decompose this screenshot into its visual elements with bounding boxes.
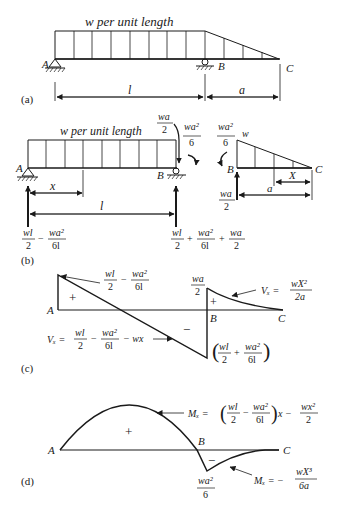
svg-text:2: 2 xyxy=(78,340,83,351)
load-label: w per unit length xyxy=(85,14,173,29)
panel-b: w per unit length A B wa 2 wa² 6 x l xyxy=(15,111,323,267)
dimension-lines-overhang xyxy=(239,168,312,200)
leader-arrow-icon xyxy=(230,467,252,475)
svg-text:6l: 6l xyxy=(248,354,256,365)
overhang-label: a xyxy=(239,83,245,97)
svg-text:wl: wl xyxy=(219,341,229,352)
X-dim-label: X xyxy=(288,169,297,181)
svg-text:2: 2 xyxy=(222,354,227,365)
shear-min-value: ( wl 2 + wa² 6l ) xyxy=(212,338,270,365)
roller-support-icon xyxy=(167,168,186,179)
svg-text:wa: wa xyxy=(192,273,204,284)
svg-text:−: − xyxy=(38,233,44,244)
point-A-label: A xyxy=(46,304,54,316)
svg-text:wl: wl xyxy=(105,268,115,279)
point-B-label: B xyxy=(210,312,217,324)
svg-text:6l: 6l xyxy=(52,240,60,251)
panel-d: A B C + − Mₓ = ( wl 2 − wa² 6l ) x − wx²… xyxy=(21,401,318,500)
svg-text:wa²: wa² xyxy=(218,121,234,132)
svg-text:2: 2 xyxy=(224,201,229,212)
shear-at-B-label: wa 2 xyxy=(157,111,173,135)
svg-text:2: 2 xyxy=(234,240,239,251)
w-label: w xyxy=(242,128,249,139)
svg-text:−: − xyxy=(243,407,249,418)
point-B-label: B xyxy=(157,169,164,181)
point-B-label: B xyxy=(198,435,205,447)
moment-at-B2-label: wa² 6 xyxy=(217,121,235,148)
shear-max-value: wl 2 − wa² 6l xyxy=(104,268,149,292)
svg-text:Mₓ =: Mₓ = xyxy=(187,408,208,419)
svg-text:6: 6 xyxy=(203,489,208,500)
svg-text:+: + xyxy=(234,347,240,358)
svg-text:2: 2 xyxy=(108,281,113,292)
shear-at-B-value: wa 2 xyxy=(191,273,205,297)
svg-text:wa: wa xyxy=(158,111,170,122)
overhang-load-outline xyxy=(237,140,312,168)
svg-text:2: 2 xyxy=(175,240,180,251)
svg-text:wX²: wX² xyxy=(291,278,308,289)
svg-text:wl: wl xyxy=(23,227,33,238)
beam-diagram: w per unit length A B C l a (a) xyxy=(0,0,341,514)
point-C-label: C xyxy=(283,444,291,456)
moment-arrow-icon xyxy=(188,155,196,165)
panel-a: w per unit length A B C l a (a) xyxy=(21,14,294,106)
moment-min-value: wa² 6 xyxy=(197,475,215,500)
svg-text:−: − xyxy=(91,333,97,344)
svg-text:wa²: wa² xyxy=(198,227,214,238)
svg-text:wa: wa xyxy=(220,188,232,199)
svg-text:2: 2 xyxy=(26,240,31,251)
svg-text:wa²: wa² xyxy=(132,268,148,279)
span-label: l xyxy=(128,83,132,97)
svg-text:−: − xyxy=(121,274,127,285)
svg-text:6: 6 xyxy=(223,137,228,148)
svg-text:wa²: wa² xyxy=(102,327,118,338)
reaction-A-formula: wl 2 − wa² 6l xyxy=(22,227,66,251)
shear-span-formula: Vₓ = wl 2 − wa² 6l − wx xyxy=(47,327,144,351)
svg-text:wa²: wa² xyxy=(198,475,214,486)
panel-b-label: (b) xyxy=(21,254,34,267)
roller-support-icon xyxy=(196,59,214,70)
svg-text:wa²: wa² xyxy=(253,401,269,412)
svg-text:wa: wa xyxy=(230,227,242,238)
point-A-label: A xyxy=(15,162,23,174)
svg-text:): ) xyxy=(271,402,278,425)
point-C-label: C xyxy=(278,312,286,324)
svg-text:6l: 6l xyxy=(135,281,143,292)
panel-c-label: (c) xyxy=(21,362,34,375)
load-label: w per unit length xyxy=(60,124,142,138)
svg-text:wa²: wa² xyxy=(184,121,200,132)
reaction-B-formula: wl 2 + wa² 6l + wa 2 xyxy=(171,227,245,251)
reaction-B2-label: wa 2 xyxy=(219,188,235,212)
plus-sign: + xyxy=(69,290,76,305)
plus-sign: + xyxy=(125,424,132,439)
moment-span-formula: Mₓ = ( wl 2 − wa² 6l ) x − wx² 2 xyxy=(187,401,318,425)
svg-text:− wx: − wx xyxy=(123,333,144,344)
plus-sign-overhang: + xyxy=(210,295,217,309)
panel-c: A B C + − + wl 2 − wa² 6l wa 2 Vₓ = wX² … xyxy=(21,268,312,375)
svg-text:2: 2 xyxy=(231,414,236,425)
minus-sign: − xyxy=(183,322,190,337)
x-dim-label: x xyxy=(49,179,56,193)
svg-text:(: ( xyxy=(220,402,227,425)
moment-overhang-formula: Mₓ = − wX³ 6a xyxy=(253,466,317,491)
svg-text:wl: wl xyxy=(228,401,238,412)
dimension-lines-a xyxy=(55,64,280,101)
point-B2-label: B xyxy=(227,163,234,175)
svg-text:): ) xyxy=(263,338,270,363)
svg-text:Vₓ =: Vₓ = xyxy=(261,285,279,296)
point-C-label: C xyxy=(286,62,294,74)
leader-arrow-icon xyxy=(232,290,256,296)
svg-text:wl: wl xyxy=(172,227,182,238)
panel-a-label: (a) xyxy=(21,93,34,106)
panel-d-label: (d) xyxy=(21,475,34,488)
svg-text:wx²: wx² xyxy=(301,401,316,412)
svg-text:wa²: wa² xyxy=(49,227,65,238)
point-A-label: A xyxy=(47,444,55,456)
load-ordinates xyxy=(74,31,262,59)
svg-text:2: 2 xyxy=(306,414,311,425)
point-C-label: C xyxy=(315,163,323,175)
svg-text:x −: x − xyxy=(277,408,292,419)
svg-text:Vₓ =: Vₓ = xyxy=(47,334,65,345)
svg-text:6l: 6l xyxy=(201,240,209,251)
svg-text:2: 2 xyxy=(195,286,200,297)
